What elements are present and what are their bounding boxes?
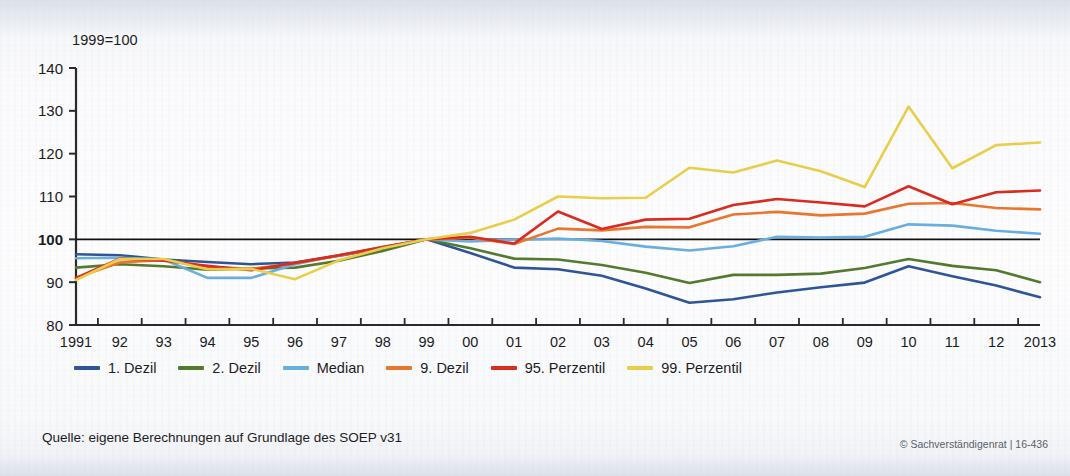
x-axis-tick-label: 10 (900, 334, 916, 350)
legend-item-label: 1. Dezil (108, 360, 156, 376)
legend-item[interactable]: 1. Dezil (74, 360, 156, 376)
x-axis-tick-label: 99 (418, 334, 434, 350)
legend-item-label: 2. Dezil (212, 360, 260, 376)
legend-color-swatch (386, 366, 412, 369)
x-axis-tick-label: 93 (156, 334, 172, 350)
x-axis-tick-label: 09 (857, 334, 873, 350)
x-axis-tick-label: 02 (550, 334, 566, 350)
chart-legend: 1. Dezil2. DezilMedian9. Dezil95. Perzen… (74, 360, 764, 376)
legend-item-label: Median (317, 360, 365, 376)
x-axis-tick-label: 04 (638, 334, 654, 350)
x-axis-tick-label: 05 (681, 334, 697, 350)
x-axis-tick-label: 00 (462, 334, 478, 350)
x-axis-tick-label: 97 (331, 334, 347, 350)
x-axis-tick-label: 94 (199, 334, 215, 350)
x-axis-tick-label: 07 (769, 334, 785, 350)
legend-color-swatch (627, 366, 653, 369)
legend-color-swatch (178, 366, 204, 369)
series-line-dezil2 (76, 239, 1040, 283)
y-axis-tick-label: 120 (38, 145, 63, 162)
x-axis-tick-label: 08 (813, 334, 829, 350)
series-line-perzentil95 (76, 186, 1040, 278)
x-axis-tick-label: 11 (945, 334, 960, 350)
legend-item-label: 99. Perzentil (661, 360, 742, 376)
y-axis-tick-label: 110 (39, 188, 63, 205)
series-group (76, 107, 1040, 303)
x-axis-tick-label: 06 (725, 334, 741, 350)
legend-item[interactable]: 95. Perzentil (491, 360, 606, 376)
x-axis-tick-label: 03 (594, 334, 610, 350)
legend-color-swatch (283, 366, 309, 369)
legend-item[interactable]: Median (283, 360, 365, 376)
legend-item[interactable]: 9. Dezil (386, 360, 468, 376)
x-axis-tick-label: 98 (375, 334, 391, 350)
legend-color-swatch (74, 366, 100, 369)
chart-container: 1999=100 8090100110120130140 19919293949… (0, 0, 1070, 476)
y-axis-tick-label: 80 (46, 317, 63, 334)
legend-item-label: 9. Dezil (420, 360, 468, 376)
x-axis-tick-label: 95 (243, 334, 259, 350)
y-axis-tick-label: 90 (46, 274, 63, 291)
legend-item-label: 95. Perzentil (525, 360, 606, 376)
y-axis-tick-label: 130 (38, 102, 63, 119)
source-note: Quelle: eigene Berechnungen auf Grundlag… (42, 430, 402, 445)
x-axis-tick-label: 96 (287, 334, 303, 350)
copyright-note: © Sachverständigenrat | 16-436 (900, 438, 1048, 450)
y-axis-tick-label: 140 (38, 60, 63, 77)
line-chart-plot: 8090100110120130140 19919293949596979899… (0, 0, 1070, 476)
legend-item[interactable]: 99. Perzentil (627, 360, 742, 376)
legend-item[interactable]: 2. Dezil (178, 360, 260, 376)
x-axis: 1991929394959697989900010203040506070809… (60, 318, 1056, 350)
series-line-dezil1 (76, 239, 1040, 302)
x-axis-tick-label: 12 (988, 334, 1004, 350)
x-axis-tick-label: 2013 (1024, 334, 1056, 350)
y-axis-tick-label: 100 (38, 231, 63, 248)
legend-color-swatch (491, 366, 517, 369)
x-axis-tick-label: 01 (506, 334, 522, 350)
x-axis-tick-label: 92 (112, 334, 128, 350)
y-axis: 8090100110120130140 (38, 60, 76, 334)
x-axis-tick-label: 1991 (60, 334, 92, 350)
